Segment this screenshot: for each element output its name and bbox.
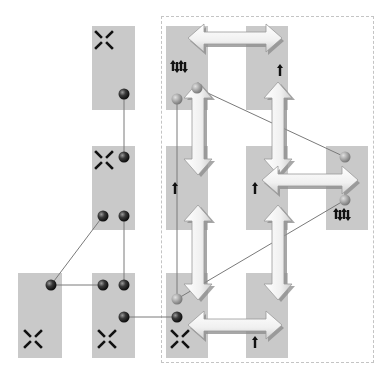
double-arrow-icon [184, 82, 215, 177]
double-arrows [184, 24, 360, 342]
diagram-overlay [0, 0, 386, 381]
port-ball-lm-in[interactable] [119, 152, 130, 163]
cross-arrows-icon [172, 331, 188, 347]
cross-arrows-icon [99, 331, 115, 347]
double-arrow-icon [264, 205, 295, 302]
port-ball-r1c1-a[interactable] [172, 94, 183, 105]
double-arrow-icon [184, 205, 215, 302]
up-arrow-icon [252, 336, 258, 348]
diagram-canvas [0, 0, 386, 381]
port-ball-r1c1-b[interactable] [192, 83, 203, 94]
port-ball-bm-in-a[interactable] [98, 280, 109, 291]
connector-line[interactable] [51, 216, 103, 285]
cross-arrows-icon [96, 152, 112, 168]
double-arrow-icon [188, 311, 284, 342]
port-ball-lt-out[interactable] [119, 89, 130, 100]
port-ball-bm-in-b[interactable] [119, 280, 130, 291]
double-arrow-icon [262, 166, 360, 197]
cross-arrows-icon [96, 32, 112, 48]
port-ball-lm-out-a[interactable] [98, 211, 109, 222]
double-arrow-icon [188, 24, 284, 55]
multi-arrows-icon [333, 208, 351, 221]
cross-arrows-icon [25, 331, 41, 347]
port-ball-r3c1-a[interactable] [172, 294, 183, 305]
port-ball-lm-out-b[interactable] [119, 211, 130, 222]
port-ball-r2c3-a[interactable] [340, 152, 351, 163]
double-arrow-icon [264, 82, 295, 177]
port-ball-bm-out[interactable] [119, 312, 130, 323]
box-icons [25, 32, 351, 348]
up-arrow-icon [277, 64, 283, 76]
multi-arrows-icon [170, 60, 188, 73]
port-ball-r2c3-b[interactable] [340, 195, 351, 206]
up-arrow-icon [252, 182, 258, 194]
port-ball-bl-port[interactable] [46, 280, 57, 291]
port-ball-r3c1-b[interactable] [172, 312, 183, 323]
